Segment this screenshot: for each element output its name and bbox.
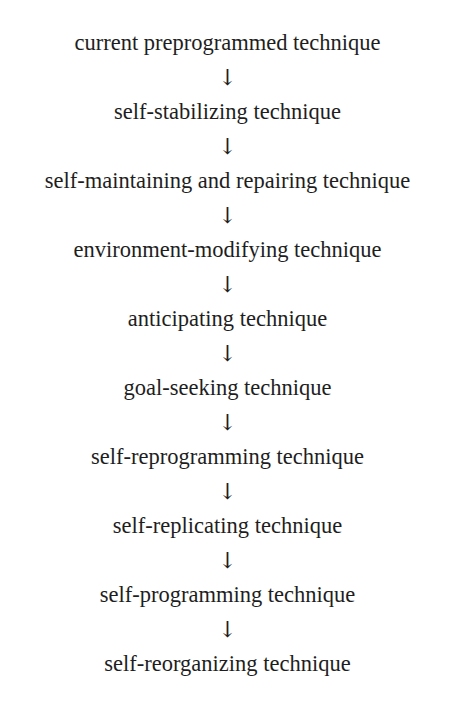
step-self-reorganizing: self-reorganizing technique bbox=[104, 649, 350, 679]
down-arrow-icon: ↓ bbox=[218, 196, 236, 235]
down-arrow-icon: ↓ bbox=[218, 265, 236, 304]
down-arrow-icon: ↓ bbox=[218, 58, 236, 97]
technique-progression-flow: current preprogrammed technique ↓ self-s… bbox=[0, 28, 455, 679]
step-self-programming: self-programming technique bbox=[100, 580, 356, 610]
step-self-stabilizing: self-stabilizing technique bbox=[114, 97, 341, 127]
down-arrow-icon: ↓ bbox=[218, 610, 236, 649]
step-environment-modifying: environment-modifying technique bbox=[73, 235, 381, 265]
step-current-preprogrammed: current preprogrammed technique bbox=[74, 28, 380, 58]
step-self-reprogramming: self-reprogramming technique bbox=[91, 442, 364, 472]
down-arrow-icon: ↓ bbox=[218, 127, 236, 166]
down-arrow-icon: ↓ bbox=[218, 472, 236, 511]
step-goal-seeking: goal-seeking technique bbox=[123, 373, 331, 403]
step-anticipating: anticipating technique bbox=[128, 304, 327, 334]
down-arrow-icon: ↓ bbox=[218, 403, 236, 442]
step-self-replicating: self-replicating technique bbox=[113, 511, 342, 541]
step-self-maintaining-repairing: self-maintaining and repairing technique bbox=[45, 166, 411, 196]
down-arrow-icon: ↓ bbox=[218, 541, 236, 580]
down-arrow-icon: ↓ bbox=[218, 334, 236, 373]
